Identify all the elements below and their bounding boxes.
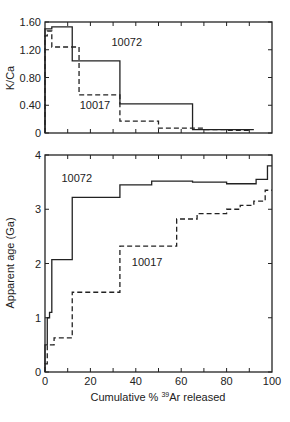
x-tick-label: 0 (42, 375, 48, 387)
x-tick-label: 20 (84, 375, 96, 387)
kca-panel: 00.400.801.201.601007210017 (20, 16, 272, 139)
series-10072-line (45, 166, 272, 372)
age-panel: 012340204060801001007210017 (35, 149, 281, 387)
y-tick-label: 0.80 (20, 72, 41, 84)
y-tick-label: 1.60 (20, 16, 41, 28)
series-label: 10017 (80, 99, 111, 111)
y-tick-label: 0.40 (20, 99, 41, 111)
series-10017-line (45, 190, 272, 372)
x-tick-label: 40 (130, 375, 142, 387)
y-tick-label: 2 (35, 258, 41, 270)
series-label: 10017 (132, 256, 163, 268)
x-tick-label: 100 (263, 375, 281, 387)
y-tick-label: 4 (35, 149, 41, 161)
bottom-y-axis-label: Apparent age (Ga) (4, 217, 16, 308)
x-axis-label: Cumulative % 39Ar released (91, 391, 226, 403)
y-tick-label: 1.20 (20, 44, 41, 56)
figure: 00.400.801.201.601007210017 012340204060… (0, 0, 290, 422)
x-tick-label: 60 (175, 375, 187, 387)
x-tick-label: 80 (220, 375, 232, 387)
series-label: 10072 (111, 36, 142, 48)
plot-frame (45, 22, 272, 133)
top-y-axis-label: K/Ca (4, 65, 16, 90)
series-label: 10072 (61, 172, 92, 184)
y-tick-label: 3 (35, 203, 41, 215)
chart-svg: 00.400.801.201.601007210017 012340204060… (0, 0, 290, 422)
y-tick-label: 0 (35, 366, 41, 378)
series-10017-line (45, 31, 249, 133)
y-tick-label: 0 (35, 127, 41, 139)
y-tick-label: 1 (35, 312, 41, 324)
series-10072-line (45, 27, 254, 133)
